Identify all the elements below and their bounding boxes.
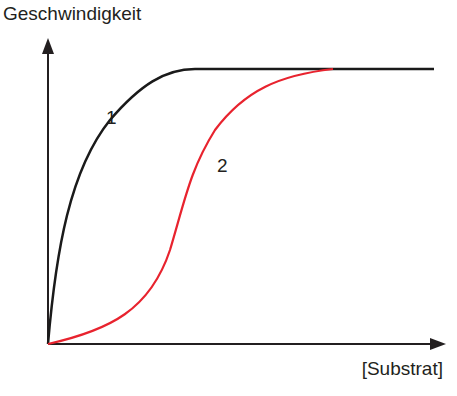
curve-1 xyxy=(48,69,434,344)
plot-area xyxy=(0,0,457,396)
y-axis-arrow-icon xyxy=(42,38,54,54)
axes xyxy=(42,38,446,350)
curve-2 xyxy=(48,69,333,344)
x-axis-arrow-icon xyxy=(430,338,446,350)
